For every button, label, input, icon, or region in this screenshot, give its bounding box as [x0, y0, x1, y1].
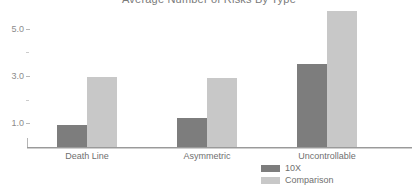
- x-axis-label: Death Line: [65, 151, 109, 161]
- bar: [177, 118, 207, 147]
- bar: [87, 77, 117, 147]
- legend-item[interactable]: Comparison: [261, 175, 334, 185]
- legend-item[interactable]: 10X: [261, 163, 334, 173]
- y-tick-mark: [26, 100, 29, 101]
- x-axis-label: Uncontrollable: [298, 151, 356, 161]
- bar: [207, 78, 237, 147]
- y-tick-mark: [26, 29, 30, 30]
- x-axis-line: [27, 147, 412, 148]
- chart-legend: 10XComparison: [261, 163, 334, 187]
- y-tick-label: 3.0: [0, 71, 24, 81]
- legend-label: 10X: [285, 163, 301, 173]
- y-tick-label: 1.0: [0, 118, 24, 128]
- chart-container: Average Number of Risks By Type 1.03.05.…: [0, 0, 418, 192]
- y-tick-mark: [26, 123, 30, 124]
- y-tick-mark: [26, 52, 29, 53]
- legend-swatch-icon: [261, 165, 280, 172]
- legend-label: Comparison: [285, 175, 334, 185]
- legend-swatch-icon: [261, 177, 280, 184]
- bar: [57, 125, 87, 147]
- bar: [297, 64, 327, 147]
- x-axis-label: Asymmetric: [184, 151, 231, 161]
- y-tick-mark: [26, 76, 30, 77]
- y-tick-label: 5.0: [0, 24, 24, 34]
- bar: [327, 11, 357, 147]
- plot-area: 1.03.05.0 Death LineAsymmetricUncontroll…: [0, 0, 418, 192]
